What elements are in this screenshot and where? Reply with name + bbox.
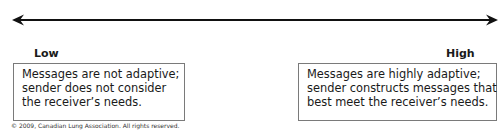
low-line-1: Messages are not adaptive; (22, 67, 176, 81)
high-description-box: Messages are highly adaptive; sender con… (298, 63, 497, 121)
high-line-1: Messages are highly adaptive; (307, 67, 488, 81)
high-label: High (446, 47, 475, 60)
low-line-2: sender does not consider (22, 81, 176, 95)
low-description-box: Messages are not adaptive; sender does n… (13, 63, 185, 121)
low-line-3: the receiver’s needs. (22, 95, 176, 109)
low-label: Low (34, 47, 59, 60)
copyright-notice: © 2009, Canadian Lung Association. All r… (11, 122, 179, 129)
high-line-3: best meet the receiver’s needs. (307, 95, 488, 109)
high-line-2: sender constructs messages that (307, 81, 488, 95)
bidirectional-arrow-icon (12, 13, 498, 27)
